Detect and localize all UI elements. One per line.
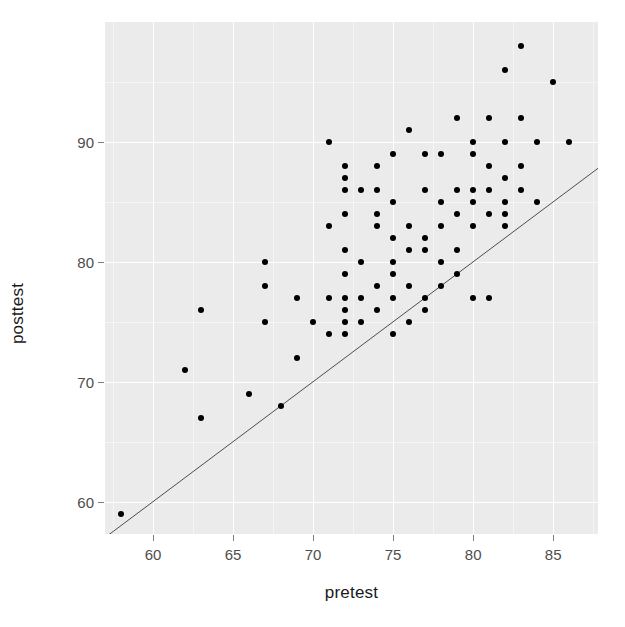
data-point [502, 211, 508, 217]
data-point [486, 295, 492, 301]
data-point [422, 151, 428, 157]
x-axis-tick-label: 85 [523, 546, 583, 563]
y-axis-tick-label: 80 [50, 253, 94, 270]
data-point [246, 391, 252, 397]
data-point [326, 139, 332, 145]
data-point [342, 175, 348, 181]
x-axis-tick-label: 65 [203, 546, 263, 563]
data-point [358, 319, 364, 325]
data-point [534, 199, 540, 205]
grid-line-major-horizontal [105, 142, 598, 143]
data-point [342, 307, 348, 313]
data-point [342, 331, 348, 337]
data-point [502, 67, 508, 73]
data-point [374, 211, 380, 217]
grid-line-major-vertical [313, 22, 314, 534]
data-point [438, 199, 444, 205]
y-axis-tick-labels: 60708090 [46, 0, 94, 627]
x-axis-title: pretest [105, 583, 598, 603]
y-axis-tick-label: 90 [50, 133, 94, 150]
grid-line-major-horizontal [105, 382, 598, 383]
x-axis-tick-mark [313, 535, 314, 541]
data-point [326, 331, 332, 337]
data-point [518, 43, 524, 49]
x-axis-tick-mark [153, 535, 154, 541]
grid-line-minor-vertical [513, 22, 514, 534]
data-point [406, 223, 412, 229]
data-point [502, 139, 508, 145]
data-point [326, 295, 332, 301]
grid-line-minor-vertical [193, 22, 194, 534]
grid-line-major-vertical [473, 22, 474, 534]
data-point [198, 307, 204, 313]
data-point [454, 247, 460, 253]
data-point [502, 199, 508, 205]
data-point [390, 259, 396, 265]
data-point [118, 511, 124, 517]
data-point [262, 319, 268, 325]
y-axis-tick-mark [98, 502, 104, 503]
data-point [390, 331, 396, 337]
data-point [390, 151, 396, 157]
grid-line-minor-vertical [593, 22, 594, 534]
data-point [342, 247, 348, 253]
data-point [550, 79, 556, 85]
data-point [422, 295, 428, 301]
grid-line-minor-vertical [433, 22, 434, 534]
data-point [454, 271, 460, 277]
data-point [342, 271, 348, 277]
data-point [198, 415, 204, 421]
grid-line-major-horizontal [105, 262, 598, 263]
grid-line-major-horizontal [105, 502, 598, 503]
data-point [486, 115, 492, 121]
data-point [534, 139, 540, 145]
data-point [374, 223, 380, 229]
x-axis-tick-mark [233, 535, 234, 541]
data-point [470, 295, 476, 301]
data-point [470, 199, 476, 205]
y-axis-title: posttest [0, 0, 36, 627]
reference-line-segment [105, 168, 598, 534]
y-axis-tick-label: 60 [50, 493, 94, 510]
data-point [566, 139, 572, 145]
x-axis-tick-mark [393, 535, 394, 541]
data-point [374, 187, 380, 193]
data-point [374, 307, 380, 313]
data-point [374, 283, 380, 289]
data-point [486, 187, 492, 193]
y-axis-tick-mark [98, 142, 104, 143]
data-point [342, 319, 348, 325]
grid-line-major-vertical [393, 22, 394, 534]
data-point [502, 175, 508, 181]
data-point [310, 319, 316, 325]
data-point [454, 115, 460, 121]
data-point [470, 151, 476, 157]
data-point [470, 187, 476, 193]
x-axis-tick-labels: 606570758085 [0, 546, 625, 570]
data-point [438, 283, 444, 289]
data-point [422, 247, 428, 253]
data-point [390, 235, 396, 241]
data-point [406, 319, 412, 325]
data-point [470, 139, 476, 145]
data-point [342, 211, 348, 217]
data-point [294, 355, 300, 361]
data-point [454, 187, 460, 193]
data-point [326, 223, 332, 229]
x-axis-tick-label: 75 [363, 546, 423, 563]
data-point [470, 223, 476, 229]
grid-line-minor-vertical [113, 22, 114, 534]
data-point [358, 295, 364, 301]
data-point [438, 259, 444, 265]
data-point [374, 163, 380, 169]
plot-panel [105, 22, 598, 534]
data-point [342, 163, 348, 169]
data-point [406, 247, 412, 253]
data-point [262, 259, 268, 265]
data-point [406, 127, 412, 133]
data-point [454, 211, 460, 217]
scatter-plot-figure: posttest pretest 60708090 606570758085 [0, 0, 625, 627]
data-point [390, 295, 396, 301]
x-axis-tick-mark [473, 535, 474, 541]
data-point [518, 115, 524, 121]
